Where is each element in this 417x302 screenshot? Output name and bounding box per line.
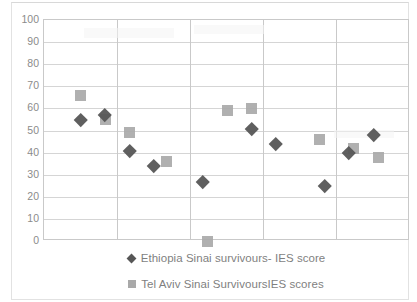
square-marker-icon xyxy=(373,152,384,163)
vertical-gridline xyxy=(263,20,264,239)
legend-item-label: Ethiopia Sinai survivours- IES score xyxy=(141,252,326,264)
diamond-marker-icon xyxy=(196,175,209,188)
diamond-marker-icon xyxy=(126,253,136,263)
horizontal-gridline xyxy=(44,131,408,132)
vertical-gridline xyxy=(336,20,337,239)
y-axis-tick-label: 70 xyxy=(13,80,39,91)
vertical-gridline xyxy=(190,20,191,239)
y-axis-tick-label: 20 xyxy=(13,190,39,201)
diamond-marker-icon xyxy=(269,137,282,150)
square-marker-icon xyxy=(246,103,257,114)
square-marker-icon xyxy=(202,236,213,247)
legend-item[interactable]: Tel Aviv Sinai SurvivoursIES scores xyxy=(43,271,409,297)
square-marker-icon xyxy=(222,105,233,116)
diamond-marker-icon xyxy=(74,113,87,126)
diamond-marker-icon xyxy=(147,159,160,172)
horizontal-gridline xyxy=(44,86,408,87)
square-marker-icon xyxy=(161,156,172,167)
vertical-gridline xyxy=(117,20,118,239)
horizontal-gridline xyxy=(44,175,408,176)
legend-item-label: Tel Aviv Sinai SurvivoursIES scores xyxy=(141,278,323,290)
chart-legend: Ethiopia Sinai survivours- IES scoreTel … xyxy=(43,245,409,297)
horizontal-gridline xyxy=(44,42,408,43)
y-axis-tick-label: 10 xyxy=(13,212,39,223)
square-marker-icon xyxy=(75,90,86,101)
square-marker-icon xyxy=(314,134,325,145)
y-axis-tick-label: 50 xyxy=(13,124,39,135)
y-axis-labels: 1009080706050403020100 xyxy=(8,0,39,302)
y-axis-tick-label: 60 xyxy=(13,102,39,113)
y-axis-tick-label: 30 xyxy=(13,168,39,179)
diamond-marker-icon xyxy=(318,179,331,192)
square-marker-icon xyxy=(128,280,136,288)
horizontal-gridline xyxy=(44,64,408,65)
y-axis-tick-label: 0 xyxy=(13,235,39,246)
y-axis-tick-label: 80 xyxy=(13,58,39,69)
horizontal-gridline xyxy=(44,219,408,220)
square-marker-icon xyxy=(124,127,135,138)
y-axis-tick-label: 90 xyxy=(13,36,39,47)
horizontal-gridline xyxy=(44,197,408,198)
diamond-marker-icon xyxy=(123,144,136,157)
diamond-marker-icon xyxy=(245,122,258,135)
scatter-chart: 1009080706050403020100 Ethiopia Sinai su… xyxy=(0,0,417,302)
y-axis-tick-label: 40 xyxy=(13,146,39,157)
y-axis-tick-label: 100 xyxy=(13,14,39,25)
plot-area xyxy=(43,19,409,240)
legend-item[interactable]: Ethiopia Sinai survivours- IES score xyxy=(43,245,409,271)
